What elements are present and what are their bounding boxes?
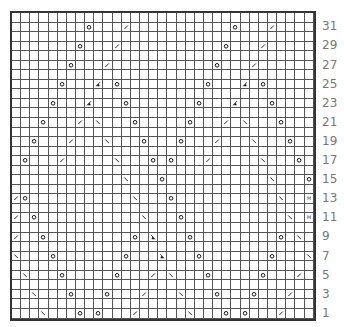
chart-cell xyxy=(94,80,103,90)
chart-cell xyxy=(222,42,231,52)
chart-cell xyxy=(113,309,122,319)
chart-cell xyxy=(305,108,314,118)
chart-cell xyxy=(231,89,240,99)
chart-cell xyxy=(268,147,277,157)
chart-cell xyxy=(131,280,140,290)
chart-cell xyxy=(204,166,213,176)
chart-cell xyxy=(21,99,30,109)
chart-cell xyxy=(295,194,304,204)
chart-cell xyxy=(49,261,58,271)
chart-cell xyxy=(222,290,231,300)
chart-cell xyxy=(167,233,176,243)
chart-cell xyxy=(295,223,304,233)
chart-cell xyxy=(76,70,85,80)
chart-cell xyxy=(286,175,295,185)
yarn-over-icon xyxy=(131,118,139,127)
chart-cell xyxy=(58,128,67,138)
chart-cell xyxy=(186,147,195,157)
chart-cell xyxy=(295,299,304,309)
chart-cell xyxy=(67,13,76,23)
chart-cell xyxy=(30,261,39,271)
chart-cell xyxy=(67,175,76,185)
left-slant-decrease-icon xyxy=(94,118,102,127)
chart-cell xyxy=(259,80,268,90)
chart-cell xyxy=(131,42,140,52)
chart-cell xyxy=(259,137,268,147)
chart-cell xyxy=(259,290,268,300)
chart-cell xyxy=(30,61,39,71)
chart-cell xyxy=(131,80,140,90)
chart-cell xyxy=(195,299,204,309)
yarn-over-icon xyxy=(259,271,267,280)
chart-cell xyxy=(122,223,131,233)
left-slant-decrease-icon xyxy=(167,271,175,280)
chart-cell xyxy=(305,89,314,99)
chart-cell xyxy=(58,51,67,61)
chart-cell xyxy=(131,70,140,80)
chart-cell xyxy=(12,61,21,71)
chart-cell xyxy=(94,166,103,176)
yarn-over-icon xyxy=(122,99,130,108)
chart-cell xyxy=(140,137,149,147)
chart-cell xyxy=(277,128,286,138)
chart-cell xyxy=(222,32,231,42)
chart-cell xyxy=(186,51,195,61)
chart-cell xyxy=(39,70,48,80)
chart-cell xyxy=(131,23,140,33)
chart-cell xyxy=(103,299,112,309)
chart-cell xyxy=(85,194,94,204)
chart-cell xyxy=(204,185,213,195)
chart-cell xyxy=(167,223,176,233)
chart-cell xyxy=(295,156,304,166)
chart-cell xyxy=(30,290,39,300)
left-slant-decrease-icon xyxy=(12,252,20,261)
chart-cell xyxy=(12,233,21,243)
chart-cell xyxy=(12,309,21,319)
chart-cell xyxy=(67,280,76,290)
chart-cell xyxy=(58,42,67,52)
chart-cell xyxy=(195,271,204,281)
chart-cell xyxy=(250,13,259,23)
chart-cell xyxy=(94,233,103,243)
chart-cell xyxy=(12,290,21,300)
chart-cell xyxy=(30,204,39,214)
chart-cell xyxy=(49,290,58,300)
chart-cell xyxy=(21,80,30,90)
chart-cell xyxy=(286,280,295,290)
chart-cell xyxy=(113,261,122,271)
chart-cell xyxy=(113,252,122,262)
chart-cell xyxy=(67,42,76,52)
chart-cell xyxy=(113,99,122,109)
chart-cell xyxy=(204,299,213,309)
chart-cell xyxy=(295,261,304,271)
chart-cell xyxy=(12,156,21,166)
chart-cell xyxy=(140,309,149,319)
chart-cell xyxy=(295,290,304,300)
chart-cell xyxy=(94,99,103,109)
chart-cell xyxy=(21,280,30,290)
chart-cell xyxy=(268,223,277,233)
chart-cell xyxy=(131,166,140,176)
chart-cell xyxy=(305,13,314,23)
chart-cell xyxy=(277,89,286,99)
chart-cell xyxy=(213,290,222,300)
chart-cell xyxy=(231,128,240,138)
chart-cell xyxy=(140,290,149,300)
chart-cell xyxy=(67,99,76,109)
chart-cell xyxy=(259,299,268,309)
chart-cell xyxy=(140,108,149,118)
chart-cell xyxy=(213,89,222,99)
chart-cell xyxy=(186,175,195,185)
chart-cell xyxy=(30,32,39,42)
chart-cell xyxy=(76,147,85,157)
chart-cell xyxy=(49,99,58,109)
chart-cell xyxy=(12,299,21,309)
chart-cell xyxy=(286,299,295,309)
chart-cell xyxy=(186,89,195,99)
yarn-over-icon xyxy=(49,99,57,108)
chart-cell xyxy=(231,242,240,252)
yarn-over-icon xyxy=(204,271,212,280)
chart-cell xyxy=(286,156,295,166)
chart-cell xyxy=(195,204,204,214)
chart-cell xyxy=(58,204,67,214)
